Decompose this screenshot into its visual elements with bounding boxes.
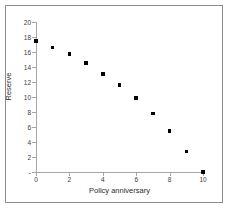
y-tick-label: 2 — [1, 154, 31, 161]
data-point — [151, 112, 155, 116]
data-point — [185, 150, 189, 154]
y-tick-label: 4 — [1, 139, 31, 146]
y-tick — [32, 112, 36, 113]
y-tick-label: 6 — [1, 124, 31, 131]
y-tick-label: - — [1, 169, 31, 176]
data-point — [101, 72, 105, 76]
y-tick-label: 20 — [1, 19, 31, 26]
chart-figure: -2468101214161820 0246810 Policy anniver… — [0, 0, 230, 213]
plot-area — [36, 22, 203, 172]
y-tick-label: 18 — [1, 34, 31, 41]
y-axis-line — [36, 22, 37, 172]
x-tick-label: 4 — [93, 176, 113, 184]
data-point — [68, 52, 72, 56]
y-tick — [32, 37, 36, 38]
y-tick — [32, 97, 36, 98]
x-tick-label: 0 — [26, 176, 46, 184]
data-point — [168, 129, 172, 133]
data-point — [118, 83, 122, 87]
x-axis-line — [36, 172, 203, 173]
x-tick-label: 2 — [59, 176, 79, 184]
data-point — [134, 96, 138, 100]
y-tick — [32, 52, 36, 53]
x-tick-label: 6 — [126, 176, 146, 184]
y-tick — [32, 67, 36, 68]
y-tick — [32, 142, 36, 143]
y-tick — [32, 22, 36, 23]
data-point — [201, 170, 205, 174]
data-point — [51, 46, 55, 50]
y-tick — [32, 157, 36, 158]
y-axis-title: Reserve — [4, 57, 13, 117]
y-tick — [32, 127, 36, 128]
data-point — [34, 39, 38, 43]
x-axis-title: Policy anniversary — [36, 186, 203, 195]
data-point — [84, 61, 88, 65]
x-tick-label: 8 — [160, 176, 180, 184]
y-tick — [32, 82, 36, 83]
x-tick-label: 10 — [193, 176, 213, 184]
y-tick-label: 16 — [1, 49, 31, 56]
